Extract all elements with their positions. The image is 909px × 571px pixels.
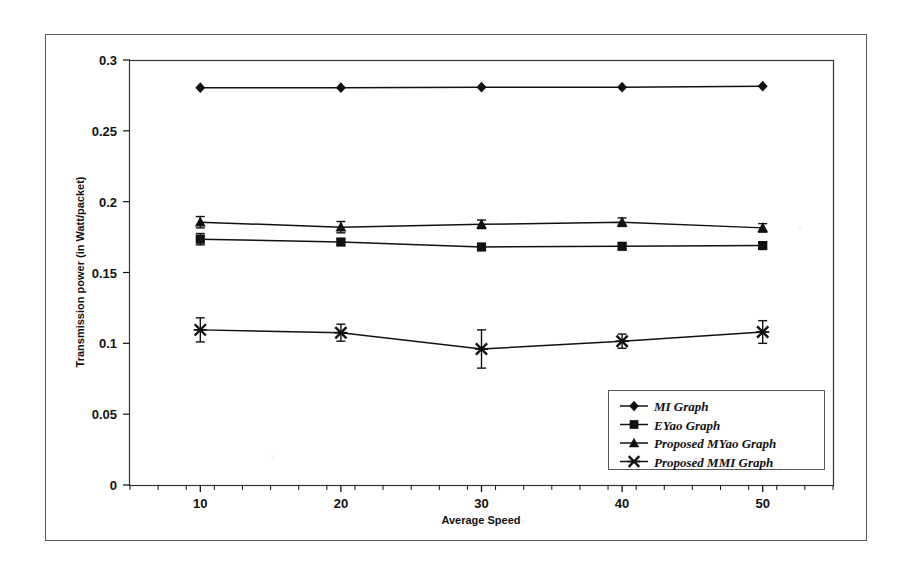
- x-tick-label: 40: [615, 496, 629, 511]
- marker-square: [758, 241, 767, 250]
- marker-square: [477, 242, 486, 251]
- y-tick-label: 0.05: [92, 407, 117, 422]
- y-tick-label: 0.25: [92, 124, 117, 139]
- x-tick-label: 50: [755, 496, 769, 511]
- x-tick-label: 30: [474, 496, 488, 511]
- figure-container: 00.050.10.150.20.250.3 1020304050 Transm…: [0, 0, 909, 571]
- y-tick-label: 0.15: [92, 266, 117, 281]
- marker-square: [336, 237, 345, 246]
- transmission-power-line-chart: 00.050.10.150.20.250.3 1020304050 Transm…: [0, 0, 909, 571]
- marker-square: [630, 420, 639, 429]
- legend-label: Proposed MYao Graph: [654, 436, 776, 451]
- x-axis-title: Average Speed: [441, 514, 520, 526]
- legend-label: EYao Graph: [653, 418, 720, 433]
- y-tick-label: 0.3: [99, 53, 117, 68]
- y-axis-title: Transmission power (in Watt/packet): [74, 176, 86, 367]
- marker-square: [196, 235, 205, 244]
- x-tick-label: 10: [193, 496, 207, 511]
- y-tick-label: 0.1: [99, 336, 117, 351]
- y-tick-label: 0.2: [99, 195, 117, 210]
- chart-legend: MI GraphEYao GraphProposed MYao GraphPro…: [609, 391, 825, 470]
- y-tick-label: 0: [110, 478, 117, 493]
- legend-label: Proposed MMI Graph: [654, 455, 773, 470]
- marker-square: [618, 242, 627, 251]
- x-tick-label: 20: [334, 496, 348, 511]
- legend-label: MI Graph: [653, 399, 709, 414]
